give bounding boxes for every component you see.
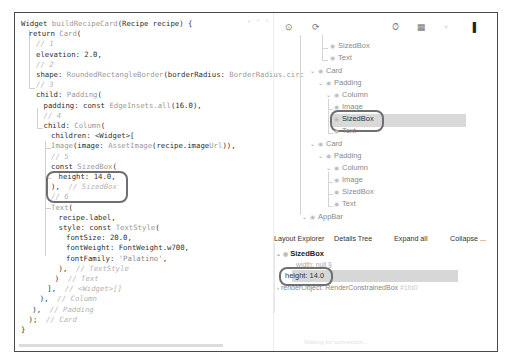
tab-details-tree[interactable]: Details Tree [334,234,372,243]
collapse-arrow-icon[interactable]: ⌄ [276,251,281,257]
widget-dot-icon: ◉ [326,80,331,86]
collapse-arrow-icon[interactable]: ⌄ [326,165,331,171]
horizontal-scrollbar[interactable] [19,344,223,347]
code-line[interactable]: return Card( [29,29,82,39]
code-line[interactable]: // 2 [36,60,54,70]
tree-node-text[interactable]: ◉Text [334,199,356,209]
code-token: elevation: 2.0, [36,50,102,59]
tree-node-sizedbox[interactable]: ◉SizedBox [334,114,374,124]
code-token: ( [113,162,117,171]
widget-dot-icon: ◉ [334,116,339,122]
code-token: children: <Widget>[ [51,131,134,140]
details-tabs: Layout Explorer Details Tree Expand all … [274,231,497,247]
code-line[interactable]: // 6 [51,192,69,202]
tree-node-image[interactable]: ◉Image [334,102,363,112]
code-line[interactable]: Image(image: AssetImage(recipe.imageUrl)… [51,141,236,151]
repaint-rainbow-icon[interactable]: ▌ [470,21,482,33]
tree-node-appbar[interactable]: ⌄◉AppBar [302,212,343,222]
code-token: buildRecipeCard [52,19,118,28]
tree-node-card[interactable]: ⌄◉Card [310,139,342,149]
code-line[interactable]: Widget buildRecipeCard(Recipe recipe) { [21,19,192,29]
collapse-arrow-icon[interactable]: ⌄ [318,153,323,159]
code-line[interactable]: ], // <Widget>[] [47,284,122,294]
code-line[interactable]: height: 14.0, [59,172,116,182]
details-height-row[interactable]: height: 14.0 [285,271,324,281]
code-line[interactable]: elevation: 2.0, [36,50,102,60]
code-line[interactable]: // 4 [44,111,62,121]
widget-dot-icon: ◉ [334,128,339,134]
code-line[interactable]: child: Column( [44,121,106,131]
select-widget-mode-icon[interactable]: ⊙ [283,21,295,33]
collapse-button[interactable]: Collapse ... [450,234,486,243]
tree-node-text[interactable]: ◉Text [330,53,352,63]
details-root-node[interactable]: ⌄ ◉ SizedBox [276,249,324,259]
tree-node-sizedbox[interactable]: ◉SizedBox [330,41,370,51]
tree-node-padding[interactable]: ⌄◉Padding [318,78,362,88]
debug-paint-icon[interactable]: ▦ [415,21,427,33]
tree-node-label: Column [342,163,368,172]
code-token: fontWeight: FontWeight.w700, [66,243,189,252]
code-line[interactable]: fontSize: 20.0, [66,233,132,243]
tree-node-column[interactable]: ⌄◉Column [326,90,368,100]
baseline-icon[interactable]: ▫ [440,21,452,33]
code-line[interactable]: // 5 [51,152,69,162]
code-line[interactable]: Text( [51,203,73,213]
tree-node-card[interactable]: ⌄◉Card [310,66,342,76]
code-editor[interactable]: ↗ ˄ ˅ Widget buildRecipeCard(Recipe reci… [15,13,273,351]
code-line[interactable]: // 1 [36,39,54,49]
code-token: // Padding [50,305,94,314]
collapse-arrow-icon[interactable]: ⌄ [326,92,331,98]
code-token: // 4 [44,111,62,120]
code-line[interactable]: ), // TextStyle [59,264,129,274]
collapse-arrow-icon[interactable]: ⌄ [310,68,315,74]
code-line[interactable]: shape: RoundedRectangleBorder(borderRadi… [36,70,304,80]
refresh-tree-icon[interactable]: ⟳ [310,21,322,33]
widget-dot-icon: ◉ [330,43,335,49]
tree-node-padding[interactable]: ⌄◉Padding [318,151,362,161]
tree-node-label: Image [342,175,363,184]
code-line[interactable]: padding: const EdgeInsets.all(16.0), [44,101,202,111]
code-token: SizedBox [77,162,112,171]
widget-dot-icon: ◉ [310,214,315,220]
code-line[interactable]: ), // Padding [32,305,94,315]
code-token: fontFamily: [66,254,119,263]
code-line[interactable]: ); // Card [29,315,77,325]
collapse-arrow-icon[interactable]: ⌄ [318,80,323,86]
code-line[interactable]: style: const TextStyle( [59,223,160,233]
code-token: // 3 [36,80,54,89]
code-line[interactable]: } [21,325,25,335]
code-token: // 5 [51,152,69,161]
tree-node-label: Card [326,139,342,148]
code-line[interactable]: // 3 [36,80,54,90]
code-token: } [21,325,25,334]
editor-nav-hints[interactable]: ↗ ˄ ˅ [247,17,270,24]
collapse-arrow-icon[interactable]: ⌄ [302,214,307,220]
code-line[interactable]: ), // Column [40,294,97,304]
code-line[interactable]: ) // Text [55,274,99,284]
tree-node-column[interactable]: ⌄◉Column [326,163,368,173]
widget-dot-icon: ◉ [283,251,288,257]
code-line[interactable]: fontFamily: 'Palatino', [66,254,167,264]
expand-arrow-icon[interactable]: › [277,285,279,291]
details-render-object-row[interactable]: › renderObject: RenderConstrainedBox #1f… [277,283,418,293]
tree-node-image[interactable]: ◉Image [334,175,363,185]
tab-layout-explorer[interactable]: Layout Explorer [274,234,324,243]
code-line[interactable]: const SizedBox( [51,162,117,172]
performance-overlay-icon[interactable]: ⏱ [389,21,401,33]
code-line[interactable]: children: <Widget>[ [51,131,134,141]
tree-node-label: SizedBox [342,114,374,123]
collapse-arrow-icon[interactable]: ⌄ [310,141,315,147]
tree-node-text[interactable]: ◉Text [334,126,356,136]
code-token: // Text [68,274,99,283]
code-line[interactable]: child: Padding( [36,90,102,100]
tree-node-label: Text [342,199,356,208]
code-line[interactable]: ), // SizedBox [51,182,117,192]
slow-animations-icon[interactable]: ■ [496,21,498,33]
code-line[interactable]: fontWeight: FontWeight.w700, [66,243,189,253]
expand-all-button[interactable]: Expand all [394,234,428,243]
code-token: // 2 [36,60,54,69]
tree-node-sizedbox[interactable]: ◉SizedBox [334,187,374,197]
tree-node-label: Column [342,90,368,99]
code-token: style: const [59,223,116,232]
code-line[interactable]: recipe.label, [59,213,116,223]
